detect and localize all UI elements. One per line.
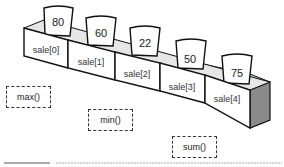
sum-function-box: sum() xyxy=(172,136,217,158)
value-card-4: 75 xyxy=(222,54,252,84)
cell-label-2: sale[2] xyxy=(124,69,151,79)
cell-label-3: sale[3] xyxy=(169,82,196,92)
value-card-1: 60 xyxy=(86,16,116,46)
value-3: 50 xyxy=(184,53,196,65)
value-0: 80 xyxy=(52,16,64,28)
cell-label-1: sale[1] xyxy=(78,57,105,67)
min-label: min() xyxy=(100,115,121,125)
cell-label-4: sale[4] xyxy=(214,94,241,104)
value-4: 75 xyxy=(231,67,243,79)
cell-label-0: sale[0] xyxy=(33,45,60,55)
min-function-box: min() xyxy=(88,109,133,131)
value-card-3: 50 xyxy=(176,39,206,69)
value-card-2: 22 xyxy=(130,26,160,56)
max-function-box: max() xyxy=(6,86,51,108)
array-diagram: 80 60 22 50 75 sale[0] sale[1] sale[2] s… xyxy=(0,0,284,167)
value-card-0: 80 xyxy=(44,6,73,36)
value-2: 22 xyxy=(139,37,151,49)
value-1: 60 xyxy=(95,27,107,39)
sum-label: sum() xyxy=(183,142,206,152)
max-label: max() xyxy=(17,92,40,102)
